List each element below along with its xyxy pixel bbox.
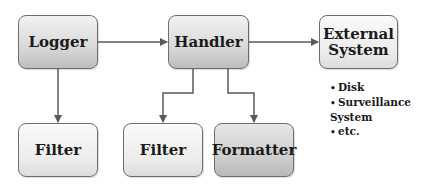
example-item: Surveillance System (330, 95, 448, 124)
external-label-line2: System (328, 42, 388, 58)
edge-handler-formatter (228, 69, 254, 122)
logger-node: Logger (18, 15, 98, 69)
logger-filter-node: Filter (18, 123, 98, 177)
handler-filter-node: Filter (123, 123, 203, 177)
external-label-line1: External (323, 26, 394, 42)
example-item: Disk (330, 80, 448, 95)
external-examples-list: Disk Surveillance System etc. (330, 80, 448, 139)
formatter-node: Formatter (214, 123, 294, 177)
handler-filter-label: Filter (140, 143, 186, 158)
handler-node: Handler (168, 15, 249, 69)
edge-handler-filter (163, 69, 193, 122)
formatter-label: Formatter (212, 143, 297, 158)
external-system-node: External System (319, 15, 398, 69)
example-item: etc. (330, 124, 448, 139)
logger-filter-label: Filter (35, 143, 81, 158)
logger-label: Logger (29, 35, 88, 50)
handler-label: Handler (174, 35, 242, 50)
